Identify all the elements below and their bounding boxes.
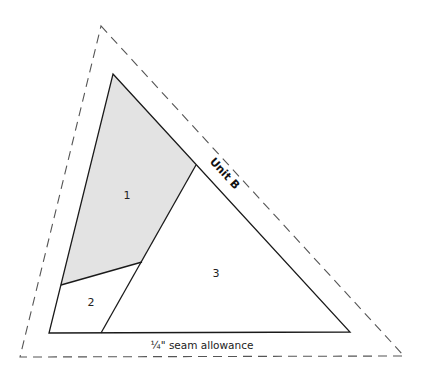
piece-1-shaded-region [61,74,196,285]
seam-allowance-caption: ¼" seam allowance [151,339,254,351]
seam-allowance-outline [20,26,404,357]
piece-label-3: 3 [213,267,220,280]
piece-label-1: 1 [124,189,131,202]
piece-label-2: 2 [88,296,95,309]
paper-piecing-diagram: 1 2 3 Unit B ¼" seam allowance [0,0,431,380]
